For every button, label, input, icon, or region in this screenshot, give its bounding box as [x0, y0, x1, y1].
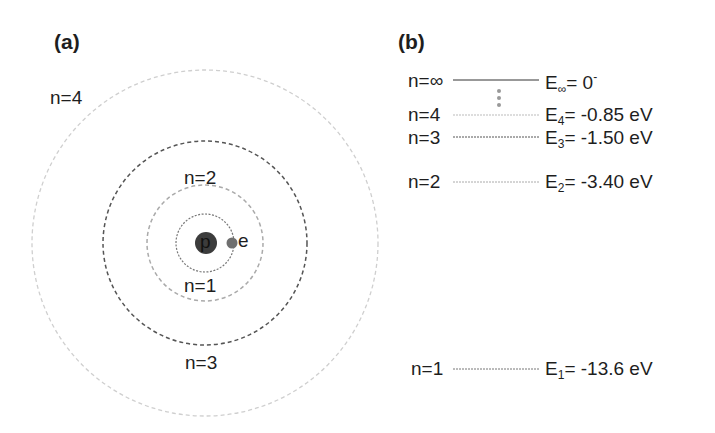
ellipsis-dot	[497, 96, 501, 100]
orbit-label-n1: n=1	[184, 276, 216, 295]
level-n-label-inf: n=∞	[408, 71, 443, 90]
level-n-label-2: n=2	[408, 172, 440, 191]
energy-label-4: E4= -0.85 eV	[545, 105, 653, 127]
orbit-label-n3: n=3	[185, 353, 217, 372]
energy-label-inf: E∞= 0-	[545, 71, 597, 95]
ellipsis-dot	[497, 89, 501, 93]
orbit-label-n4: n=4	[50, 88, 82, 107]
level-n-label-1: n=1	[411, 359, 443, 378]
level-n-label-4: n=4	[408, 105, 440, 124]
ellipsis-dot	[497, 103, 501, 107]
electron	[227, 238, 238, 249]
orbit-label-n2: n=2	[184, 168, 216, 187]
nucleus-label: p	[200, 232, 211, 251]
energy-label-2: E2= -3.40 eV	[545, 172, 653, 194]
energy-label-3: E3= -1.50 eV	[545, 128, 653, 150]
electron-label: e	[238, 231, 249, 250]
level-n-label-3: n=3	[408, 128, 440, 147]
energy-label-1: E1= -13.6 eV	[545, 359, 653, 381]
